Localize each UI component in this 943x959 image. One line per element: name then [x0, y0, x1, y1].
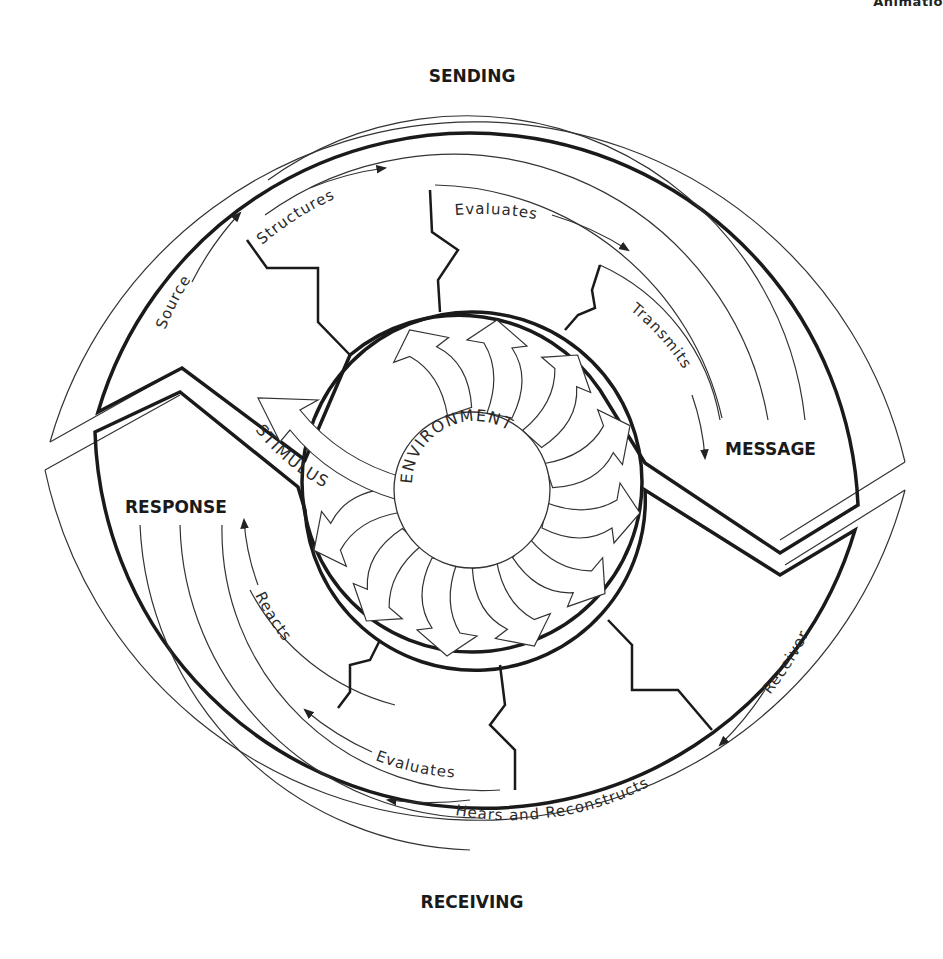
step-evaluates-receiving: Evaluates: [374, 747, 457, 782]
sending-concentric-lines: [265, 116, 805, 420]
receiving-title: RECEIVING: [421, 892, 524, 912]
step-source: Source: [152, 272, 195, 332]
step-receiver: Receiver: [759, 627, 812, 697]
environment-circle: [394, 412, 550, 568]
message-label: MESSAGE: [725, 439, 816, 459]
step-evaluates-sending: Evaluates: [454, 200, 540, 223]
communication-cycle-diagram: SENDING RECEIVING MESSAGE RESPONSE Sourc…: [0, 0, 943, 959]
step-reacts: Reacts: [251, 589, 295, 645]
sending-title: SENDING: [429, 66, 516, 86]
response-label: RESPONSE: [125, 497, 227, 517]
